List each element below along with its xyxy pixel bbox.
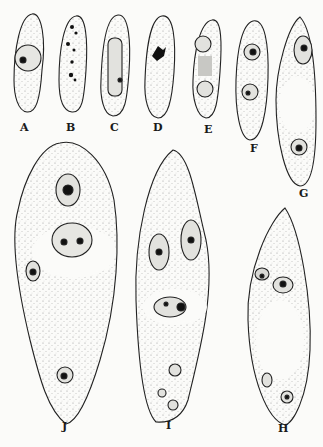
panel-label-h: H [278,422,288,435]
panel-label-i: I [166,419,171,432]
panel-label-e: E [204,123,212,136]
panel-label-j: J [62,420,67,433]
panel-label-a: A [20,121,29,134]
panel-label-g: G [299,187,308,200]
cell-b [59,16,87,112]
cell-f [236,21,268,140]
panel-label-c: C [110,121,119,134]
cell-i [136,150,209,422]
cell-d [145,16,175,118]
embryo-sac-figure [0,0,323,447]
panel-label-b: B [66,121,75,134]
panel-label-f: F [250,142,258,155]
panel-label-d: D [153,121,163,134]
